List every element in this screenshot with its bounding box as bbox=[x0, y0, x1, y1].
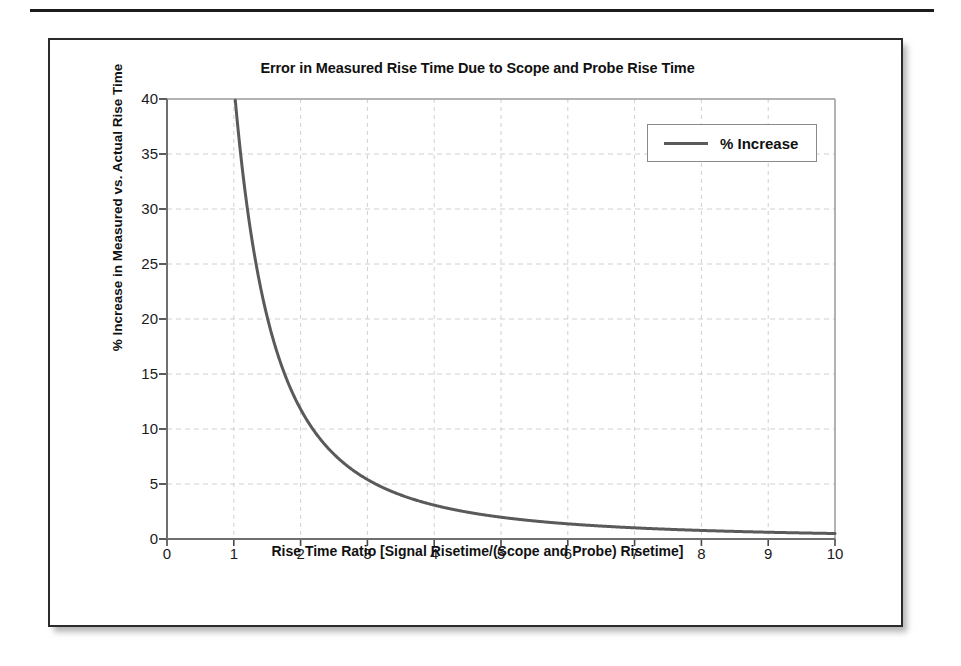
axis-ticks bbox=[159, 99, 835, 546]
legend-line-swatch bbox=[664, 142, 708, 145]
chart-title: Error in Measured Rise Time Due to Scope… bbox=[50, 60, 905, 76]
page-header-rule bbox=[30, 9, 934, 12]
y-tick-label: 10 bbox=[118, 421, 158, 436]
chart-legend: % Increase bbox=[647, 124, 817, 162]
chart-figure: Error in Measured Rise Time Due to Scope… bbox=[50, 40, 905, 625]
data-series-line bbox=[235, 100, 835, 533]
y-tick-label: 15 bbox=[118, 366, 158, 381]
y-tick-label: 5 bbox=[118, 476, 158, 491]
plot-area bbox=[167, 99, 835, 539]
y-tick-label: 30 bbox=[118, 201, 158, 216]
plot-canvas bbox=[167, 99, 835, 539]
y-tick-label: 35 bbox=[118, 146, 158, 161]
y-tick-label: 40 bbox=[118, 91, 158, 106]
y-tick-label: 25 bbox=[118, 256, 158, 271]
legend-entry-label: % Increase bbox=[720, 135, 798, 152]
figure-frame: Error in Measured Rise Time Due to Scope… bbox=[48, 38, 903, 627]
y-tick-label: 20 bbox=[118, 311, 158, 326]
y-axis-tick-labels: 0510152025303540 bbox=[112, 99, 158, 539]
x-axis-title: Rise Time Ratio [Signal Risetime/(Scope … bbox=[50, 543, 905, 559]
